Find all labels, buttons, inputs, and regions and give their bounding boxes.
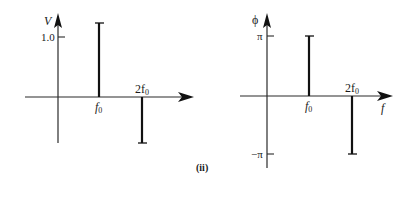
spectrum-figure: V 1.0 f0 2f0 ϕ π −π [0, 0, 413, 197]
phase-x-axis-label: f [381, 101, 386, 115]
amplitude-y-tick-label: 1.0 [41, 31, 55, 43]
amplitude-y-axis-label: V [44, 14, 53, 28]
phase-x-tick-f0-label: f0 [305, 99, 312, 114]
phase-y-axis-label: ϕ [252, 13, 258, 27]
phase-spectrum-panel: ϕ π −π f0 2f0 f [240, 13, 393, 168]
amplitude-spectrum-panel: V 1.0 f0 2f0 [25, 13, 194, 143]
phase-y-tick-pi-label: π [257, 30, 263, 42]
phase-x-tick-2f0-label: 2f0 [345, 81, 359, 96]
phase-y-tick-neg-pi-label: −π [251, 148, 263, 160]
figure-caption: (ii) [196, 162, 208, 174]
amplitude-x-tick-2f0-label: 2f0 [135, 82, 149, 97]
amplitude-x-tick-f0-label: f0 [95, 100, 102, 115]
